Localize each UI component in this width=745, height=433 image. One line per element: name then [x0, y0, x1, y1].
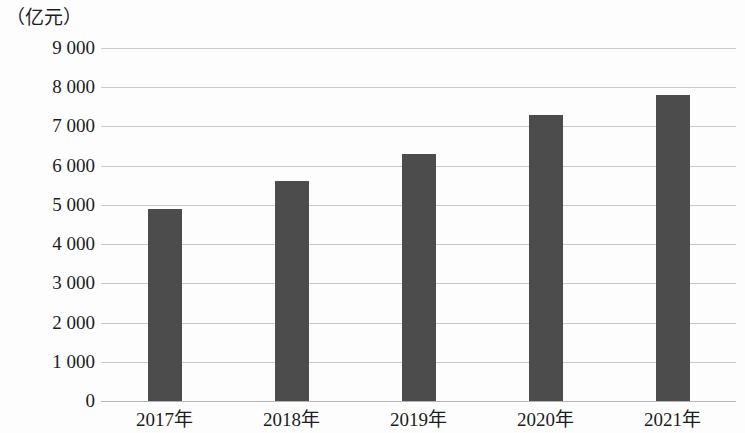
x-tick-label: 2019年: [390, 404, 447, 431]
y-tick-label: 7 000: [52, 115, 95, 137]
gridline: [101, 126, 736, 127]
y-tick-label: 2 000: [52, 312, 95, 334]
bar: [529, 115, 563, 401]
bar: [148, 209, 182, 401]
y-tick-label: 0: [86, 390, 96, 412]
x-axis-tick-labels: 2017年2018年2019年2020年2021年: [101, 404, 736, 433]
x-tick-label: 2018年: [263, 404, 320, 431]
y-tick-label: 9 000: [52, 37, 95, 59]
axis-baseline: [101, 401, 736, 402]
gridline: [101, 48, 736, 49]
y-tick-label: 5 000: [52, 194, 95, 216]
x-tick-label: 2021年: [644, 404, 701, 431]
bar: [656, 95, 690, 401]
y-tick-label: 8 000: [52, 76, 95, 98]
y-tick-label: 3 000: [52, 272, 95, 294]
x-tick-label: 2017年: [136, 404, 193, 431]
plot-area: [101, 48, 736, 401]
x-tick-label: 2020年: [517, 404, 574, 431]
bar: [275, 181, 309, 401]
chart-page: （亿元） 9 0008 0007 0006 0005 0004 0003 000…: [0, 0, 745, 433]
gridline: [101, 87, 736, 88]
y-tick-label: 6 000: [52, 155, 95, 177]
y-axis-unit-label: （亿元）: [6, 2, 82, 29]
y-axis-tick-labels: 9 0008 0007 0006 0005 0004 0003 0002 000…: [0, 48, 95, 401]
bar: [402, 154, 436, 401]
y-tick-label: 4 000: [52, 233, 95, 255]
y-tick-label: 1 000: [52, 351, 95, 373]
